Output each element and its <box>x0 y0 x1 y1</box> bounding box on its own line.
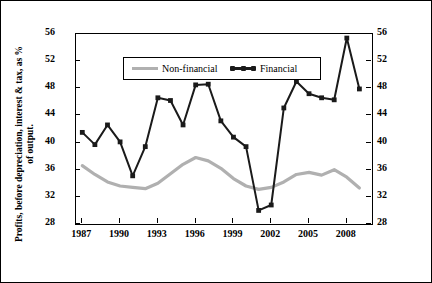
legend-marker-mid-icon <box>241 66 246 71</box>
y-tick-mark <box>75 196 80 197</box>
y-tick-mark <box>366 196 371 197</box>
legend-swatch-non-financial <box>132 67 158 70</box>
y-tick-label-left: 36 <box>29 162 55 173</box>
legend-item-non-financial: Non-financial <box>132 61 218 75</box>
x-tick-label: 2002 <box>250 228 290 239</box>
x-tick-label: 1987 <box>61 228 101 239</box>
x-tick-label: 1993 <box>137 228 177 239</box>
data-point-financial <box>118 139 123 144</box>
y-tick-mark <box>75 142 80 143</box>
data-point-financial <box>319 95 324 100</box>
legend-label-financial: Financial <box>260 63 297 74</box>
data-point-financial <box>80 130 85 135</box>
y-tick-mark <box>366 60 371 61</box>
y-tick-label-right: 44 <box>377 107 403 118</box>
y-tick-mark <box>75 87 80 88</box>
data-point-financial <box>193 82 198 87</box>
legend-marker-right-icon <box>251 66 256 71</box>
x-tick-mark <box>346 218 347 223</box>
x-tick-label: 1999 <box>212 228 252 239</box>
y-tick-label-left: 52 <box>29 53 55 64</box>
y-tick-label-right: 56 <box>377 26 403 37</box>
x-tick-label: 2008 <box>326 228 366 239</box>
data-point-financial <box>181 123 186 128</box>
data-point-financial <box>130 173 135 178</box>
y-tick-label-right: 52 <box>377 53 403 64</box>
data-point-financial <box>92 142 97 147</box>
y-tick-label-left: 56 <box>29 26 55 37</box>
y-tick-label-right: 36 <box>377 162 403 173</box>
legend-item-financial: Financial <box>230 61 297 75</box>
data-point-financial <box>269 203 274 208</box>
data-point-financial <box>143 144 148 149</box>
data-point-financial <box>218 118 223 123</box>
x-tick-label: 1990 <box>99 228 139 239</box>
x-tick-mark <box>195 218 196 223</box>
x-tick-mark <box>270 218 271 223</box>
data-point-financial <box>206 82 211 87</box>
y-tick-mark <box>366 114 371 115</box>
y-tick-mark <box>366 87 371 88</box>
y-tick-label-left: 48 <box>29 80 55 91</box>
y-tick-label-left: 32 <box>29 189 55 200</box>
y-tick-label-left: 40 <box>29 135 55 146</box>
data-point-financial <box>344 36 349 41</box>
y-tick-mark <box>366 33 371 34</box>
x-tick-mark <box>119 218 120 223</box>
y-tick-mark <box>366 142 371 143</box>
y-tick-mark <box>75 169 80 170</box>
y-tick-label-left: 44 <box>29 107 55 118</box>
chart-figure: Profits, before depreciation, interest &… <box>0 0 432 283</box>
y-tick-label-right: 32 <box>377 189 403 200</box>
legend-marker-left-icon <box>230 66 235 71</box>
series-non-financial <box>82 158 359 190</box>
y-tick-mark <box>75 60 80 61</box>
data-point-financial <box>155 95 160 100</box>
data-point-financial <box>357 87 362 92</box>
y-tick-mark <box>366 223 371 224</box>
y-tick-mark <box>75 114 80 115</box>
x-tick-label: 1996 <box>175 228 215 239</box>
y-tick-label-right: 28 <box>377 216 403 227</box>
y-tick-mark <box>75 33 80 34</box>
x-tick-mark <box>81 218 82 223</box>
chart-legend: Non-financial Financial <box>123 57 321 80</box>
data-point-financial <box>105 123 110 128</box>
data-point-financial <box>168 98 173 103</box>
data-point-financial <box>307 91 312 96</box>
x-tick-mark <box>157 218 158 223</box>
data-point-financial <box>231 135 236 140</box>
legend-swatch-financial <box>230 67 256 70</box>
data-point-financial <box>244 144 249 149</box>
data-point-financial <box>256 208 261 213</box>
legend-label-non-financial: Non-financial <box>162 63 218 74</box>
y-tick-mark <box>75 223 80 224</box>
y-axis-title: Profits, before depreciation, interest &… <box>7 41 25 241</box>
y-tick-label-left: 28 <box>29 216 55 227</box>
data-point-financial <box>332 97 337 102</box>
data-point-financial <box>281 106 286 111</box>
x-tick-mark <box>308 218 309 223</box>
x-tick-mark <box>232 218 233 223</box>
y-tick-mark <box>366 169 371 170</box>
y-tick-label-right: 48 <box>377 80 403 91</box>
y-tick-label-right: 40 <box>377 135 403 146</box>
x-tick-label: 2005 <box>288 228 328 239</box>
